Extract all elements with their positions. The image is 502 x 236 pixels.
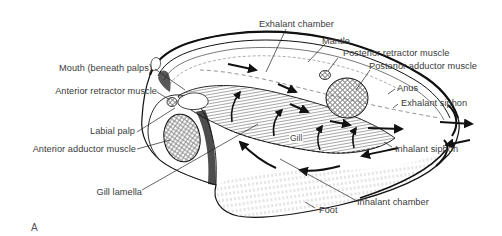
label-anterior-retractor-muscle: Anterior retractor muscle [55,86,157,96]
panel-letter: A [31,222,38,233]
label-mouth: Mouth (beneath palps) [59,63,152,73]
label-exhalant-chamber: Exhalant chamber [259,19,334,29]
label-gill-lamella: Gill lamella [96,187,142,197]
label-exhalant-siphon: Exhalant siphon [401,98,467,108]
label-labial-palp: Labial palp [90,126,135,136]
posterior-adductor-muscle-shape [326,78,368,118]
label-posterior-adductor-muscle: Posterior adductor muscle [369,61,477,71]
label-gill: Gill [289,133,303,143]
label-anterior-adductor-muscle: Anterior adductor muscle [33,144,136,154]
label-mantle: Mantle [322,36,350,46]
label-inhalant-chamber: Inhalant chamber [357,197,429,207]
bivalve-anatomy-figure: Exhalant chamber Mantle Posterior retrac… [0,0,502,236]
label-anus: Anus [397,83,418,93]
label-posterior-retractor-muscle: Posterior retractor muscle [343,48,449,58]
posterior-retractor-muscle-shape [320,71,331,80]
label-inhalant-siphon: Inhalant siphon [395,144,458,154]
label-foot: Foot [319,205,338,215]
